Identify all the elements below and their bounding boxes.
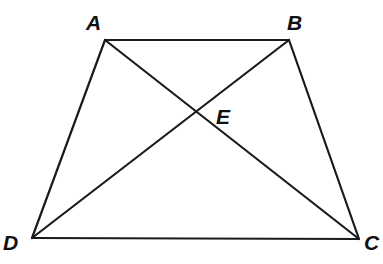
diagonal-bd xyxy=(32,40,289,238)
intersection-label-e: E xyxy=(216,105,231,128)
vertex-label-a: A xyxy=(85,11,101,34)
vertex-label-b: B xyxy=(287,11,302,34)
diagonal-ac xyxy=(105,40,359,239)
trapezoid-diagram: A B E D C xyxy=(0,0,383,264)
segment-da xyxy=(32,40,105,238)
vertex-label-d: D xyxy=(3,231,18,254)
segment-cd xyxy=(32,238,359,239)
vertex-label-c: C xyxy=(364,231,380,254)
segment-bc xyxy=(289,40,359,239)
